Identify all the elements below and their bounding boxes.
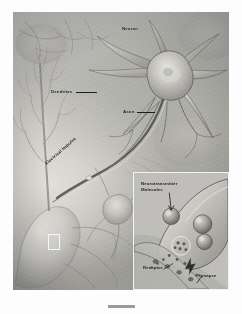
caption-placeholder-bar [108,305,135,308]
leader-line-axon [137,112,155,113]
zoom-region-marker [48,234,60,250]
neuron-illustration-figure: Neuron Dendrites Axon Electrical Impulse [13,12,229,290]
label-receptor: Receptor [143,265,162,271]
label-neurotransmitter-molecules: Neurotransmitter Molecules [141,181,179,192]
label-synapse: Synapse [198,273,216,279]
label-dendrites: Dendrites [51,89,72,95]
leader-line-dendrites [76,92,97,93]
page-canvas: Neuron Dendrites Axon Electrical Impulse [0,0,242,314]
label-axon: Axon [123,109,134,115]
label-neuron: Neuron [122,26,138,32]
synapse-detail-inset: Neurotransmitter Molecules Receptor Syna… [133,172,229,290]
